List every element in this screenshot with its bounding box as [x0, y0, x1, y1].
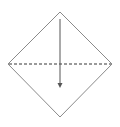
figure-canvas: Rhombus with vertical arrow and dashed h… [0, 0, 120, 127]
diagram-svg [0, 0, 120, 127]
